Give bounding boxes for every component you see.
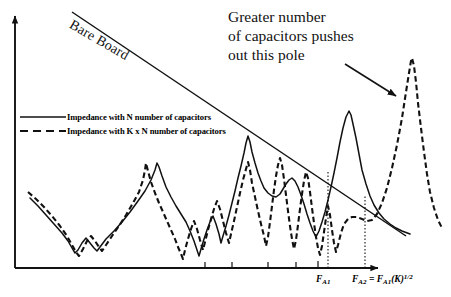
x-axis-ticks (205, 261, 318, 268)
plot-canvas (0, 0, 451, 297)
callout-line-1: Greater number (228, 8, 354, 27)
callout-line-3: out this pole (228, 46, 354, 65)
fa2-tail: (K) (391, 274, 404, 284)
fa1-subscript: A1 (322, 278, 330, 286)
fa2-equals-subscript: A1 (383, 278, 391, 286)
callout-arrow (345, 64, 396, 96)
legend-entry-label-kn: Impedance with K x N number of capacitor… (67, 126, 226, 136)
callout-line-2: of capacitors pushes (228, 27, 354, 46)
legend-samples (20, 117, 66, 131)
legend-entry-label-n: Impedance with N number of capacitors (67, 112, 211, 122)
fa2-exponent: 1/2 (404, 273, 413, 281)
callout-annotation: Greater number of capacitors pushes out … (228, 8, 354, 65)
fa2-axis-label: FA2 = FA1(K)1/2 (352, 273, 413, 286)
curve-impedance-kn (28, 58, 442, 259)
fa2-subscript: A2 (358, 278, 366, 286)
impedance-frequency-figure: Bare Board Greater number of capacitors … (0, 0, 451, 297)
fa1-axis-label: FA1 (316, 274, 331, 286)
fa2-equals: = F (367, 274, 384, 284)
curve-layer (28, 58, 442, 259)
